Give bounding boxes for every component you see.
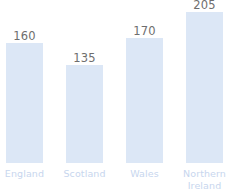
bar-group-scotland: 135 Scotland xyxy=(66,0,103,196)
bar-value-label: 135 xyxy=(73,52,96,64)
bar-category-england: England xyxy=(5,168,44,180)
bar-group-wales: 170 Wales xyxy=(126,0,163,196)
bar-rect-england[interactable] xyxy=(6,43,43,163)
plot-area: 160 England 135 Scotland 170 Wales 205 xyxy=(0,0,227,196)
bar-category-line: England xyxy=(5,168,44,180)
bar-value-label: 160 xyxy=(13,30,36,42)
bar-group-england: 160 England xyxy=(6,0,43,196)
bar-value-label: 205 xyxy=(193,0,216,11)
bar-rect-wales[interactable] xyxy=(126,38,163,163)
bar-rect-northern-ireland[interactable] xyxy=(186,12,223,163)
bar-category-line: Wales xyxy=(130,168,159,180)
bar-rect-scotland[interactable] xyxy=(66,65,103,163)
bar-chart: 160 England 135 Scotland 170 Wales 205 xyxy=(0,0,227,196)
bar-value-label: 170 xyxy=(133,25,156,37)
bar-category-scotland: Scotland xyxy=(63,168,105,180)
bar-category-northern-ireland: Northern Ireland xyxy=(183,168,226,191)
bar-category-line: Northern xyxy=(183,168,226,180)
bar-group-northern-ireland: 205 Northern Ireland xyxy=(186,0,223,196)
bar-category-line: Ireland xyxy=(183,180,226,192)
bar-category-line: Scotland xyxy=(63,168,105,180)
bar-category-wales: Wales xyxy=(130,168,159,180)
